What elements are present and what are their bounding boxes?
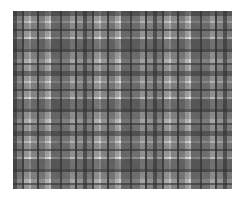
tone-adjust <box>13 11 232 189</box>
plaid-texture <box>13 11 232 189</box>
image-canvas <box>0 0 244 202</box>
